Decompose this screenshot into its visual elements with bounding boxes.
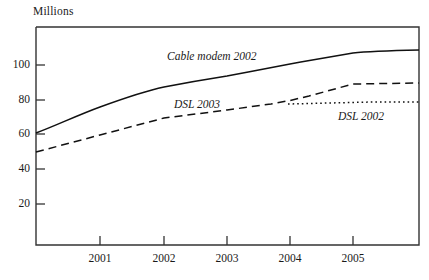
x-tick-label-2005: 2005 (333, 252, 373, 264)
y-tick-label-20: 20 (4, 197, 30, 209)
y-axis-ticks (36, 65, 45, 204)
x-tick-label-2004: 2004 (270, 252, 310, 264)
x-tick-label-2001: 2001 (80, 252, 120, 264)
series-line-dsl-2002 (288, 102, 419, 104)
y-tick-label-60: 60 (4, 127, 30, 139)
x-tick-label-2003: 2003 (207, 252, 247, 264)
x-tick-label-2002: 2002 (144, 252, 184, 264)
series-label-dsl-2003: DSL 2003 (174, 98, 220, 110)
y-tick-label-40: 40 (4, 162, 30, 174)
series-label-cable-modem-2002: Cable modem 2002 (167, 50, 256, 62)
series-label-dsl-2002: DSL 2002 (338, 110, 384, 122)
chart-container: Millions 100 80 60 40 20 2 (0, 0, 429, 280)
chart-canvas (0, 0, 429, 280)
y-tick-label-80: 80 (4, 93, 30, 105)
x-axis-ticks (100, 236, 353, 245)
y-tick-label-100: 100 (4, 58, 30, 70)
